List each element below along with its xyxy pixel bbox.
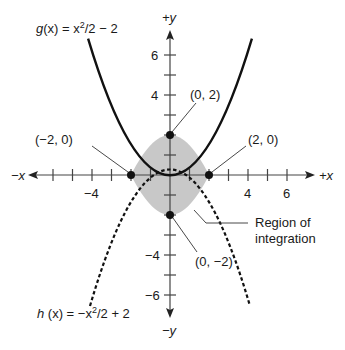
point-0-2 [166, 131, 174, 139]
y-neg-label: −y [162, 323, 178, 338]
label-point-0-2: (0, 2) [190, 87, 220, 102]
h-function-label: h (x) = −x2/2 + 2 [37, 305, 130, 321]
integration-region-diagram: −x +x +y −y −4 4 6 6 4 −4 −6 (−2, 0) (2,… [0, 0, 345, 350]
tick-label-x-6: 6 [283, 186, 290, 201]
point-neg2-0 [127, 171, 135, 179]
y-pos-label: +y [162, 10, 178, 25]
region-label-line2: integration [255, 231, 316, 246]
tick-label-y-neg6: −6 [145, 288, 160, 303]
tick-label-x-4: 4 [244, 186, 251, 201]
g-function-label: g(x) = x2/2 − 2 [36, 20, 118, 36]
x-neg-label: −x [11, 168, 26, 183]
x-pos-label: +x [319, 168, 334, 183]
region-label-line1: Region of [255, 215, 311, 230]
point-2-0 [205, 171, 213, 179]
tick-label-y-neg4: −4 [145, 248, 160, 263]
tick-label-y-4: 4 [151, 88, 158, 103]
label-point-neg2-0: (−2, 0) [35, 132, 73, 147]
label-point-0-neg2: (0, −2) [195, 254, 233, 269]
tick-label-x-neg4: −4 [84, 186, 99, 201]
point-0-neg2 [166, 211, 174, 219]
tick-label-y-6: 6 [151, 48, 158, 63]
label-point-2-0: (2, 0) [248, 132, 278, 147]
